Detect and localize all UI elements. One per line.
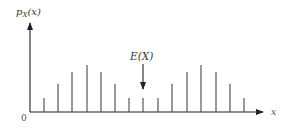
y-axis-label: pX(x) bbox=[16, 7, 41, 19]
plot-area bbox=[0, 0, 290, 129]
origin-label: 0 bbox=[21, 114, 27, 123]
pmf-stem-diagram: pX(x) E(X) 0 x bbox=[0, 0, 290, 129]
expected-value-label: E(X) bbox=[130, 51, 153, 62]
x-axis-label: x bbox=[271, 107, 276, 117]
stems-group bbox=[44, 65, 244, 112]
